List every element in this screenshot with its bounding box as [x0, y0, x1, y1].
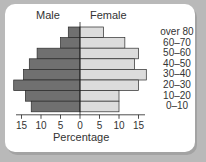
male-bar — [68, 27, 80, 38]
male-bar — [25, 91, 80, 102]
x-tick-label: 10 — [109, 120, 129, 131]
male-bar — [14, 80, 80, 91]
x-tick-label: 10 — [31, 120, 51, 131]
female-bar — [80, 38, 125, 49]
x-tick-label: 15 — [12, 120, 32, 131]
age-group-label: 40–50 — [152, 58, 202, 69]
x-axis-label: Percentage — [53, 131, 109, 143]
x-tick-label: 0 — [70, 120, 90, 131]
x-tick-label: 5 — [90, 120, 110, 131]
male-bar — [29, 59, 80, 70]
female-bar — [80, 91, 119, 102]
female-bar — [80, 59, 135, 70]
age-group-label: 60–70 — [152, 37, 202, 48]
male-bar — [37, 48, 80, 59]
female-bar — [80, 101, 119, 112]
age-group-label: 10–20 — [152, 90, 202, 101]
age-group-label: 30–40 — [152, 68, 202, 79]
age-group-label: 0–10 — [152, 100, 202, 111]
male-bar — [31, 101, 80, 112]
x-tick-label: 5 — [51, 120, 71, 131]
female-bar — [80, 48, 139, 59]
female-bar — [80, 80, 139, 91]
male-bar — [61, 38, 81, 49]
x-tick-label: 15 — [129, 120, 149, 131]
age-group-label: over 80 — [152, 26, 202, 37]
male-bar — [23, 69, 80, 80]
age-group-label: 50–60 — [152, 47, 202, 58]
female-bar — [80, 27, 103, 38]
female-bar — [80, 69, 146, 80]
age-group-label: 20–30 — [152, 79, 202, 90]
